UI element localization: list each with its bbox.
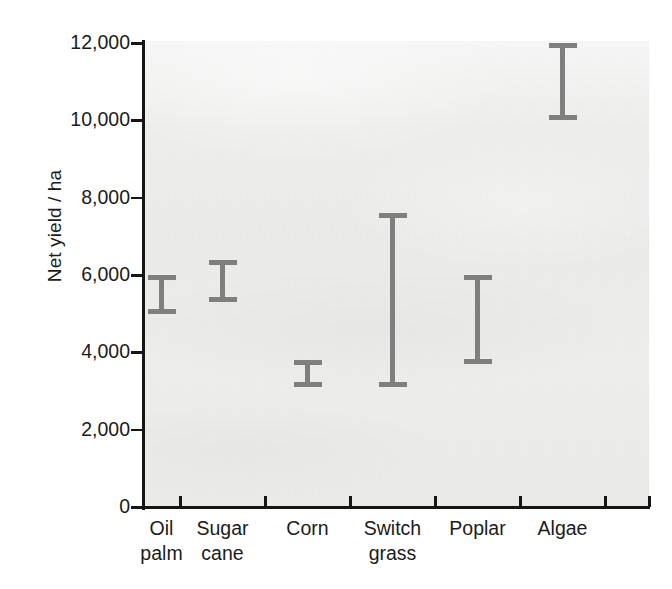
error-bar-cap-upper <box>464 275 492 280</box>
y-axis-tick-label: 0 <box>38 495 130 518</box>
x-axis-tick-label-line2: grass <box>333 541 453 566</box>
error-bar-stem <box>220 260 225 303</box>
x-axis-tick-label-line1: Switch <box>364 517 421 539</box>
error-bar-cap-lower <box>379 382 407 387</box>
x-axis-tick-label-line2: cane <box>163 541 283 566</box>
x-axis-tick <box>349 496 352 507</box>
y-axis-tick <box>131 197 143 200</box>
y-axis-tick <box>131 42 143 45</box>
error-bar-cap-lower <box>549 115 577 120</box>
x-axis-line <box>142 506 650 509</box>
y-axis-tick-labels: 02,0004,0006,0008,00010,00012,000 <box>30 0 130 589</box>
x-axis-tick <box>142 496 145 507</box>
x-axis-tick <box>519 496 522 507</box>
x-axis-tick <box>264 496 267 507</box>
y-axis-tick <box>131 351 143 354</box>
x-axis-tick <box>648 496 651 507</box>
error-bar-stem <box>560 43 565 120</box>
y-axis-tick-label: 4,000 <box>38 340 130 363</box>
y-axis-tick-label: 8,000 <box>38 186 130 209</box>
error-bar <box>288 360 328 387</box>
x-axis-tick-label-line1: Corn <box>286 517 328 539</box>
y-axis-tick <box>131 119 143 122</box>
x-axis-tick <box>434 496 437 507</box>
y-axis-tick <box>131 429 143 432</box>
error-bar <box>373 213 413 387</box>
y-axis-tick-label: 12,000 <box>38 31 130 54</box>
error-bar-cap-lower <box>464 359 492 364</box>
error-bar-stem <box>390 213 395 387</box>
error-bar-cap-upper <box>379 213 407 218</box>
error-bar-cap-upper <box>209 260 237 265</box>
error-bar-stem <box>475 275 480 364</box>
error-bar-cap-lower <box>209 297 237 302</box>
error-bar <box>458 275 498 364</box>
error-bar-cap-upper <box>294 360 322 365</box>
error-bar-cap-lower <box>294 382 322 387</box>
error-bar-cap-lower <box>148 309 176 314</box>
error-bar <box>142 275 182 314</box>
error-bar <box>203 260 243 303</box>
y-axis-tick-label: 6,000 <box>38 263 130 286</box>
x-axis-tick-label-line1: Algae <box>538 517 588 539</box>
error-bar-cap-upper <box>148 275 176 280</box>
x-axis-tick-label-line1: Poplar <box>449 517 505 539</box>
y-axis-tick-label: 2,000 <box>38 418 130 441</box>
x-axis-tick-label: Algae <box>503 516 623 541</box>
chart-figure: Net yield / ha 02,0004,0006,0008,00010,0… <box>0 0 672 589</box>
x-axis-tick <box>179 496 182 507</box>
error-bar-cap-upper <box>549 43 577 48</box>
error-bar <box>543 43 583 120</box>
x-axis-tick <box>604 496 607 507</box>
y-axis-tick-label: 10,000 <box>38 108 130 131</box>
x-axis-tick-label-line1: Sugar <box>196 517 248 539</box>
